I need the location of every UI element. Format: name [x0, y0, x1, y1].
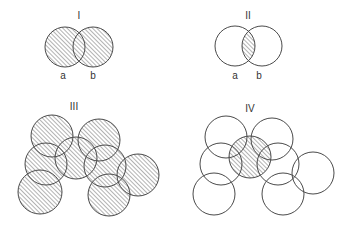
- set-label-a: a: [60, 70, 66, 81]
- panel-3-title: III: [70, 101, 78, 112]
- set-label-b: b: [90, 70, 96, 81]
- panel-4-single-shaded: IV: [193, 103, 334, 215]
- circle-outline: [205, 116, 247, 158]
- set-label-b: b: [256, 70, 262, 81]
- panel-3-union-many: III: [18, 101, 159, 216]
- circle-outline: [262, 173, 304, 215]
- set-label-a: a: [232, 70, 238, 81]
- venn-diagram-figure: I ab II ab III IV: [0, 0, 352, 231]
- circle-outline: [193, 173, 235, 215]
- panel-2-title: II: [245, 10, 251, 21]
- panel-4-title: IV: [245, 103, 255, 114]
- panel-2-intersection: II ab: [215, 10, 282, 81]
- panel-1-union: I ab: [45, 10, 113, 81]
- panel-1-title: I: [78, 10, 81, 21]
- circle-outline: [292, 152, 334, 194]
